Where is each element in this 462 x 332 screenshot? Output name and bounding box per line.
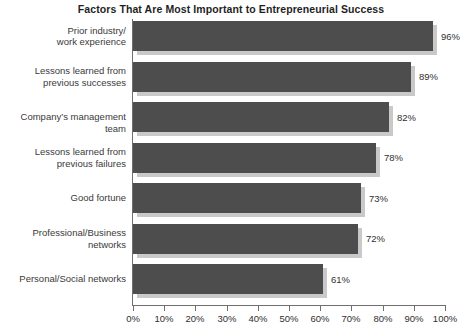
bar-value-label: 73%	[369, 193, 388, 204]
category-label: Personal/Social networks	[0, 273, 126, 285]
x-tick-mark	[164, 306, 165, 311]
bar[interactable]	[133, 183, 361, 213]
x-tick-mark	[383, 306, 384, 311]
bar-row: Lessons learned fromprevious failures78%	[0, 143, 462, 173]
x-tick-mark	[258, 306, 259, 311]
bar-value-label: 72%	[366, 233, 385, 244]
bar-container[interactable]	[133, 183, 361, 213]
category-label: Lessons learned fromprevious successes	[0, 65, 126, 88]
bar-row: Professional/Businessnetworks72%	[0, 224, 462, 254]
bar[interactable]	[133, 21, 433, 51]
bar-value-label: 89%	[419, 71, 438, 82]
bar-shadow	[137, 92, 415, 96]
bar-container[interactable]	[133, 264, 323, 294]
category-label: Prior industry/work experience	[0, 25, 126, 48]
x-tick-label: 100%	[433, 313, 457, 324]
bar-container[interactable]	[133, 21, 433, 51]
category-label-line: Professional/Business	[0, 227, 126, 239]
bar[interactable]	[133, 102, 389, 132]
chart-title: Factors That Are Most Important to Entre…	[0, 3, 462, 15]
x-tick-mark	[289, 306, 290, 311]
bar-shadow	[361, 187, 365, 217]
category-label: Professional/Businessnetworks	[0, 227, 126, 250]
x-tick-label: 70%	[341, 313, 360, 324]
x-tick-label: 50%	[279, 313, 298, 324]
bar-container[interactable]	[133, 224, 358, 254]
x-tick-mark	[351, 306, 352, 311]
bar-value-label: 82%	[397, 112, 416, 123]
bar-container[interactable]	[133, 143, 376, 173]
category-label-line: Prior industry/	[0, 25, 126, 37]
x-tick-mark	[445, 306, 446, 311]
bar-shadow	[137, 132, 393, 136]
category-label-line: networks	[0, 239, 126, 251]
category-label-line: work experience	[0, 36, 126, 48]
category-label: Good fortune	[0, 192, 126, 204]
bar-shadow	[137, 254, 362, 258]
bar-shadow	[323, 268, 327, 298]
bar-value-label: 78%	[384, 152, 403, 163]
bar-row: Good fortune73%	[0, 183, 462, 213]
x-tick-mark	[227, 306, 228, 311]
category-label-line: previous successes	[0, 77, 126, 89]
bar-value-label: 61%	[331, 274, 350, 285]
x-tick-label: 0%	[126, 313, 140, 324]
bar-shadow	[376, 147, 380, 177]
x-tick-label: 40%	[248, 313, 267, 324]
x-tick-label: 30%	[217, 313, 236, 324]
bar[interactable]	[133, 264, 323, 294]
x-tick-label: 20%	[185, 313, 204, 324]
x-tick-mark	[414, 306, 415, 311]
category-label-line: Company’s management team	[0, 111, 126, 134]
category-label: Lessons learned fromprevious failures	[0, 146, 126, 169]
bar-container[interactable]	[133, 62, 411, 92]
bar-shadow	[433, 25, 437, 55]
bar-shadow	[358, 228, 362, 258]
bar[interactable]	[133, 143, 376, 173]
bar-shadow	[137, 51, 437, 55]
x-tick-mark	[320, 306, 321, 311]
category-label-line: Good fortune	[0, 192, 126, 204]
x-tick-label: 60%	[310, 313, 329, 324]
bar-shadow	[411, 66, 415, 96]
x-tick-mark	[133, 306, 134, 311]
bar-row: Prior industry/work experience96%	[0, 21, 462, 51]
bar-shadow	[137, 213, 365, 217]
category-label-line: Lessons learned from	[0, 65, 126, 77]
bar-shadow	[137, 294, 327, 298]
category-label-line: Personal/Social networks	[0, 273, 126, 285]
bar-shadow	[389, 106, 393, 136]
category-label-line: Lessons learned from	[0, 146, 126, 158]
x-tick-label: 80%	[373, 313, 392, 324]
category-label-line: previous failures	[0, 158, 126, 170]
x-tick-label: 10%	[154, 313, 173, 324]
bar-row: Company’s management team82%	[0, 102, 462, 132]
bar-value-label: 96%	[441, 31, 460, 42]
bar[interactable]	[133, 62, 411, 92]
bar[interactable]	[133, 224, 358, 254]
category-label: Company’s management team	[0, 111, 126, 134]
bar-chart: Factors That Are Most Important to Entre…	[0, 0, 462, 332]
x-tick-mark	[195, 306, 196, 311]
bar-shadow	[137, 173, 380, 177]
x-tick-label: 90%	[404, 313, 423, 324]
bar-row: Lessons learned fromprevious successes89…	[0, 62, 462, 92]
bar-row: Personal/Social networks61%	[0, 264, 462, 294]
bar-container[interactable]	[133, 102, 389, 132]
